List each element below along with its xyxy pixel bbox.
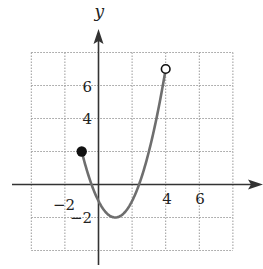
- grid-lines: [31, 53, 233, 251]
- y-tick-label: 4: [82, 110, 92, 128]
- x-tick-label: 6: [195, 190, 205, 208]
- closed-endpoint-dot: [77, 146, 87, 156]
- y-tick-label: −2: [70, 209, 92, 227]
- y-tick-label: 6: [82, 78, 92, 96]
- function-curve: [82, 69, 166, 218]
- open-endpoint-circle: [161, 65, 170, 74]
- graph: y −2 4 6 6 4 −2: [0, 0, 263, 269]
- axes: y: [12, 1, 263, 265]
- x-tick-label: 4: [162, 190, 172, 208]
- y-axis-label: y: [94, 1, 105, 21]
